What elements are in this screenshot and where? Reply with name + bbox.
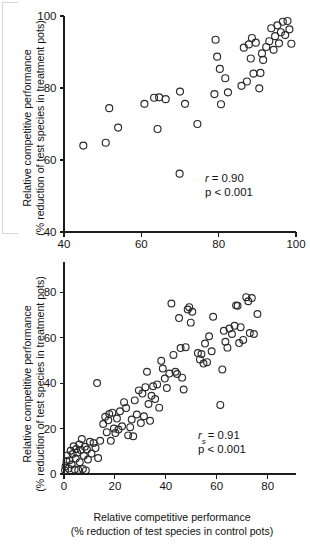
- data-point-bottom-90: [206, 333, 213, 340]
- data-point-bottom-93: [217, 402, 224, 409]
- y-tick-label-bottom-2: 40: [44, 377, 57, 389]
- data-point-bottom-97: [224, 344, 231, 351]
- data-point-bottom-99: [229, 331, 236, 338]
- data-point-top-29: [257, 69, 264, 76]
- data-point-top-44: [288, 40, 295, 47]
- x-tick-label-top-0: 40: [58, 238, 71, 250]
- scatter-panel-top: Relative competitive performance (% redu…: [0, 0, 310, 262]
- data-point-top-7: [156, 94, 163, 101]
- data-point-top-26: [250, 70, 257, 77]
- data-point-top-30: [258, 50, 265, 57]
- x-axis-title-line2-bottom: (% reduction of test species in control …: [71, 525, 274, 537]
- y-tick-label-top-1: 60: [44, 154, 57, 166]
- data-point-bottom-59: [145, 401, 152, 408]
- data-point-top-14: [212, 36, 219, 43]
- y-tick-label-top-3: 100: [37, 10, 56, 22]
- data-point-top-42: [284, 18, 291, 25]
- data-point-bottom-37: [107, 437, 114, 444]
- y-tick-label-top-2: 80: [44, 82, 57, 94]
- data-point-bottom-62: [150, 383, 157, 390]
- data-point-bottom-82: [187, 319, 194, 326]
- data-point-bottom-16: [76, 459, 83, 466]
- data-point-top-19: [224, 89, 231, 96]
- data-point-top-13: [211, 91, 218, 98]
- tick-labels-top: 406080100406080100: [37, 10, 305, 250]
- figure-container: Relative competitive performance (% redu…: [0, 0, 310, 549]
- data-point-bottom-52: [133, 411, 140, 418]
- y-tick-label-bottom-3: 60: [44, 332, 57, 344]
- data-point-bottom-20: [80, 452, 87, 459]
- y-axis-title-line2-top: (% reduction of test species in treatmen…: [34, 20, 46, 236]
- scatter-panel-bottom: Relative competitive performance (% redu…: [0, 262, 310, 549]
- data-point-bottom-65: [156, 404, 163, 411]
- data-point-top-43: [286, 26, 293, 33]
- data-point-top-8: [162, 96, 169, 103]
- data-point-bottom-29: [94, 380, 101, 387]
- x-tick-label-bottom-1: 20: [109, 480, 122, 492]
- data-point-top-3: [115, 124, 122, 131]
- data-point-top-23: [245, 41, 252, 48]
- tick-marks-top: [60, 16, 297, 237]
- data-point-bottom-51: [131, 397, 138, 404]
- stat-coefficient-top: r= 0.90: [205, 172, 244, 184]
- data-point-bottom-30: [95, 455, 102, 462]
- data-point-bottom-54: [137, 420, 144, 427]
- data-point-top-35: [270, 46, 277, 53]
- data-point-top-33: [266, 38, 273, 45]
- data-point-top-38: [275, 40, 282, 47]
- stat-coefficient-symbol-top: r: [205, 172, 210, 184]
- data-point-bottom-31: [97, 437, 104, 444]
- data-point-top-31: [260, 56, 267, 63]
- y-axis-title-bottom: Relative competitive performance (% redu…: [21, 276, 46, 492]
- x-tick-label-bottom-0: 0: [61, 480, 67, 492]
- data-point-top-28: [256, 85, 263, 92]
- data-point-bottom-110: [250, 331, 257, 338]
- scatter-plot-top: Relative competitive performance (% redu…: [0, 0, 310, 262]
- data-point-top-15: [214, 53, 221, 60]
- y-axis-title-top: Relative competitive performance (% redu…: [21, 20, 46, 236]
- data-point-bottom-88: [202, 340, 209, 347]
- data-point-bottom-78: [180, 386, 187, 393]
- data-point-bottom-75: [176, 315, 183, 322]
- data-point-bottom-58: [144, 368, 151, 375]
- data-point-bottom-60: [147, 417, 154, 424]
- data-point-bottom-57: [142, 384, 149, 391]
- x-tick-label-top-2: 80: [212, 238, 225, 250]
- data-point-top-1: [102, 139, 109, 146]
- x-tick-label-bottom-4: 80: [261, 480, 274, 492]
- axes-top: [64, 16, 296, 232]
- stats-annotation-top: r= 0.90 p < 0.001: [205, 172, 253, 198]
- data-point-top-10: [177, 88, 184, 95]
- data-point-bottom-41: [114, 415, 121, 422]
- data-points-top: [80, 18, 295, 178]
- data-point-top-27: [252, 39, 259, 46]
- axes-bottom: [64, 262, 296, 474]
- x-tick-label-bottom-3: 60: [210, 480, 223, 492]
- data-point-bottom-56: [141, 413, 148, 420]
- data-point-top-22: [243, 78, 250, 85]
- y-axis-title-line1-bottom: Relative competitive performance: [21, 305, 33, 462]
- data-point-bottom-111: [254, 311, 261, 318]
- data-point-bottom-69: [163, 385, 170, 392]
- data-point-top-24: [247, 55, 254, 62]
- data-point-top-12: [194, 121, 201, 128]
- data-point-top-18: [222, 75, 229, 82]
- y-tick-label-bottom-1: 20: [44, 423, 57, 435]
- y-tick-label-bottom-0: 0: [50, 468, 56, 480]
- stats-annotation-bottom: rs= 0.91 p < 0.001: [198, 429, 246, 455]
- data-point-top-21: [240, 44, 247, 51]
- data-point-top-2: [106, 105, 113, 112]
- data-point-top-0: [80, 142, 87, 149]
- x-tick-label-top-1: 60: [135, 238, 148, 250]
- data-point-bottom-48: [127, 424, 134, 431]
- scatter-plot-bottom: Relative competitive performance (% redu…: [0, 262, 310, 549]
- data-point-top-11: [182, 100, 189, 107]
- data-point-top-25: [248, 34, 255, 41]
- data-point-bottom-34: [103, 429, 110, 436]
- data-point-bottom-91: [208, 348, 215, 355]
- data-point-top-17: [217, 101, 224, 108]
- y-axis-title-line1-top: Relative competitive performance: [21, 49, 33, 206]
- y-tick-label-top-0: 40: [44, 226, 57, 238]
- stat-coefficient-value-bottom: = 0.91: [208, 429, 240, 441]
- data-point-top-16: [216, 65, 223, 72]
